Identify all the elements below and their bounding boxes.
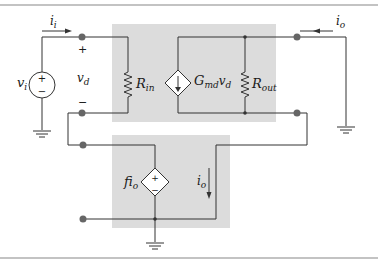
junction-rout-bottom	[243, 111, 247, 115]
junction-rout-top	[243, 35, 247, 39]
ground-icon-left	[33, 131, 51, 137]
node-input-plus	[79, 34, 86, 41]
ground-icon-bottom	[146, 243, 164, 249]
vd-minus-sign: −	[78, 96, 87, 109]
ground-icon-right	[337, 127, 355, 133]
circuit-diagram: + − + − ii io vi + vd − Rin Gmdvd Rout f…	[0, 0, 378, 262]
input-current-arrow-icon	[65, 29, 72, 34]
svg-text:+: +	[151, 173, 159, 183]
output-current-label: io	[336, 14, 346, 30]
output-current-arrow-icon	[313, 29, 320, 34]
node-fb-bottom	[80, 216, 87, 223]
svg-text:−: −	[38, 86, 46, 97]
node-output-top	[294, 34, 301, 41]
junction-fb-ground	[153, 217, 157, 221]
node-fb-top	[80, 142, 87, 149]
source-voltage-label: vi	[17, 75, 27, 92]
input-current-label: ii	[50, 14, 57, 30]
svg-text:+: +	[38, 73, 46, 84]
vd-plus-sign: +	[78, 43, 87, 56]
node-input-minus	[79, 110, 86, 117]
vd-label: vd	[77, 71, 90, 87]
svg-text:−: −	[151, 185, 159, 195]
node-output-bottom	[294, 110, 301, 117]
